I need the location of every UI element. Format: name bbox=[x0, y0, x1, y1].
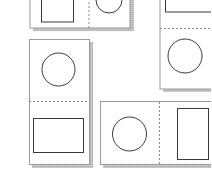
card-middle-left bbox=[29, 40, 93, 169]
card-top-right bbox=[160, 0, 211, 92]
folded-cards-diagram bbox=[0, 0, 211, 173]
card-body bbox=[101, 102, 212, 165]
card-top-left bbox=[30, 0, 134, 31]
card-body bbox=[160, 0, 211, 89]
card-bottom-right bbox=[101, 102, 212, 169]
card-body bbox=[30, 0, 130, 28]
